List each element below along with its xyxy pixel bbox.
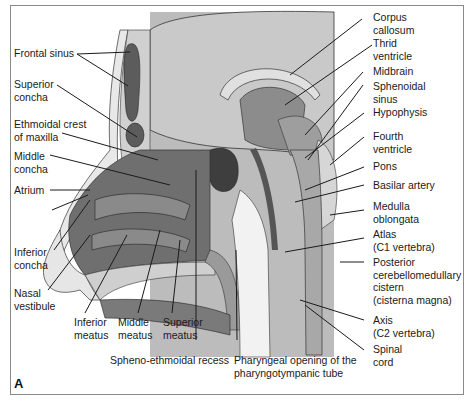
- label-ethmoidal-crest: Ethmoidal crest of maxilla: [14, 118, 86, 143]
- label-corpus-callosum: Corpus callosum: [373, 11, 414, 36]
- label-atlas: Atlas (C1 vertebra): [373, 228, 435, 253]
- ethmoid-cell: [126, 123, 144, 147]
- label-midbrain: Midbrain: [373, 65, 413, 78]
- label-posterior-cistern: Posterior cerebellomedullary cistern (ci…: [373, 256, 461, 306]
- label-pons: Pons: [373, 160, 397, 173]
- label-medulla-oblongata: Medulla oblongata: [373, 200, 419, 225]
- label-basilar-artery: Basilar artery: [373, 179, 435, 192]
- label-pharyngeal-opening: Pharyngeal opening of the pharyngotympan…: [234, 354, 357, 379]
- label-spheno-ethmoidal-recess: Spheno-ethmoidal recess: [110, 354, 229, 367]
- label-superior-concha: Superior concha: [14, 78, 54, 103]
- label-hypophysis: Hypophysis: [373, 106, 427, 119]
- label-frontal-sinus: Frontal sinus: [14, 47, 74, 60]
- panel-letter: A: [14, 376, 23, 391]
- frontal-sinus-shape: [124, 44, 140, 122]
- label-fourth-ventricle: Fourth ventricle: [373, 130, 412, 155]
- label-superior-meatus: Superior meatus: [163, 316, 203, 341]
- label-middle-meatus: Middle meatus: [118, 316, 152, 341]
- label-nasal-vestibule: Nasal vestibule: [14, 287, 55, 312]
- label-atrium: Atrium: [14, 184, 44, 197]
- label-sphenoidal-sinus: Sphenoidal sinus: [373, 80, 426, 105]
- label-axis: Axis (C2 vertebra): [373, 314, 435, 339]
- label-inferior-meatus: Inferior meatus: [74, 316, 108, 341]
- label-middle-concha: Middle concha: [14, 150, 48, 175]
- label-inferior-concha: Inferior concha: [14, 246, 48, 271]
- label-third-ventricle: Thrid ventricle: [373, 37, 412, 62]
- label-spinal-cord: Spinal cord: [373, 343, 402, 368]
